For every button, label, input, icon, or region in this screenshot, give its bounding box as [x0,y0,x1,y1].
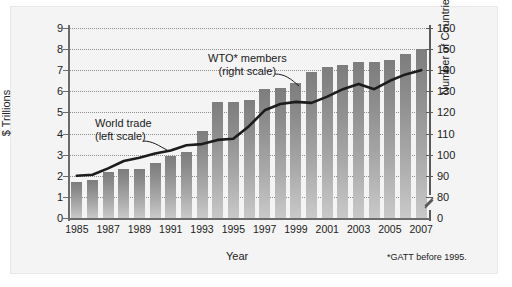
bar [337,65,348,218]
bar [322,67,333,218]
x-axis-ticklabel: 2007 [406,223,436,235]
bar [275,88,286,218]
y-axis-right-tick [426,70,433,71]
bar [228,102,239,218]
bar [197,131,208,218]
x-axis-ticklabel: 2001 [312,223,342,235]
annotation-trade-line1: World trade [95,117,152,130]
y-axis-right-ticklabel: 0 [437,213,463,223]
y-axis-left-ticklabels: 9876543210 [33,7,63,287]
bar [87,180,98,218]
bar [244,100,255,218]
y-axis-left-ticklabel: 5 [41,107,63,117]
y-axis-right-tick [426,49,433,50]
bar [384,60,395,218]
x-axis-ticklabel: 1999 [281,223,311,235]
y-axis-left-tick [63,49,70,50]
y-axis-right-title: Number of Countries [439,0,451,95]
y-axis-right-tick [426,155,433,156]
x-axis-ticklabel: 1987 [93,223,123,235]
y-axis-right-line [429,25,431,195]
x-axis-ticklabel: 2005 [375,223,405,235]
bar [290,83,301,218]
bar [103,172,114,218]
y-axis-left-tick [63,155,70,156]
y-axis-right-ticklabel: 80 [437,192,463,202]
x-axis-ticklabel: 2003 [344,223,374,235]
y-axis-left-tick [63,28,70,29]
y-axis-left-ticklabel: 4 [41,129,63,139]
y-axis-right-ticklabel: 120 [437,107,463,117]
y-axis-right-tick [426,28,433,29]
y-axis-right-tick [426,176,433,177]
y-axis-right-ticklabel: 90 [437,171,463,181]
y-axis-left-ticklabel: 6 [41,86,63,96]
x-axis-line [68,218,430,220]
y-axis-left-tick [63,70,70,71]
annotation-world-trade: World trade (left scale) [95,117,152,143]
y-axis-left-ticklabel: 3 [41,150,63,160]
x-axis-ticklabel: 1995 [218,223,248,235]
y-axis-left-ticklabel: 2 [41,171,63,181]
annotation-trade-line2: (left scale) [95,130,152,143]
x-axis-ticklabel: 1989 [124,223,154,235]
y-axis-left-tick [63,218,70,219]
x-axis-ticklabel: 1997 [250,223,280,235]
x-axis-ticklabel: 1985 [62,223,92,235]
bar [369,62,380,218]
bar [134,169,145,218]
y-axis-left-title: $ Trillions [0,90,12,136]
bar [400,54,411,218]
gridline [69,49,429,50]
y-axis-left-tick [63,112,70,113]
bar [118,169,129,218]
y-axis-left-ticklabel: 1 [41,192,63,202]
bar [259,89,270,218]
y-axis-left-tick [63,197,70,198]
x-axis-ticklabel: 1993 [187,223,217,235]
x-axis-title: Year [226,250,248,262]
bar [150,163,161,218]
bar [71,182,82,218]
chart-panel: 9876543210 16015014013012011010090800 19… [10,6,498,274]
chart-footnote: *GATT before 1995. [387,252,467,262]
gridline [69,28,429,29]
y-axis-right-tick [426,91,433,92]
y-axis-left-ticklabel: 7 [41,65,63,75]
y-axis-right-ticklabel: 110 [437,129,463,139]
x-axis-ticklabels: 1985198719891991199319951997199920012003… [69,223,429,239]
bar [306,72,317,218]
y-axis-right-tick [426,112,433,113]
y-axis-right-tick [426,197,433,198]
bar [165,156,176,218]
y-axis-left-ticklabel: 0 [41,213,63,223]
x-axis-ticklabel: 1991 [156,223,186,235]
y-axis-left-ticklabel: 8 [41,44,63,54]
y-axis-right-tick [426,134,433,135]
annotation-wto-line2: (right scale) [208,65,287,78]
y-axis-left-tick [63,176,70,177]
y-axis-left-tick [63,134,70,135]
y-axis-left-tick [63,91,70,92]
bar [212,102,223,218]
chart-figure: 9876543210 16015014013012011010090800 19… [0,0,512,287]
y-axis-left-ticklabel: 9 [41,23,63,33]
y-axis-right-ticklabel: 100 [437,150,463,160]
bar [353,62,364,218]
annotation-wto-line1: WTO* members [208,52,287,65]
bar [181,152,192,219]
annotation-wto-members: WTO* members (right scale) [208,52,287,78]
